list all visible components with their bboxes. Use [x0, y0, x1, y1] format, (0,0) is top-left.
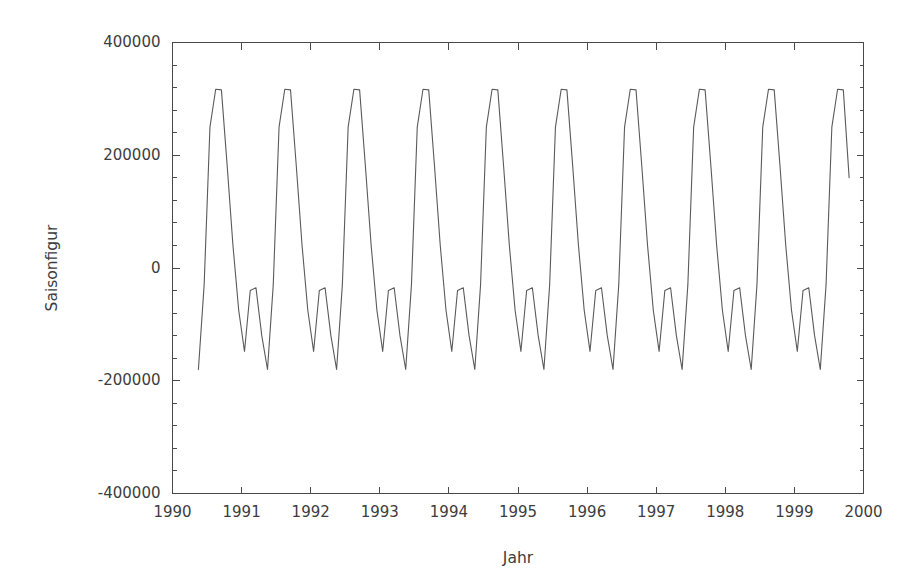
plot-frame: [173, 43, 864, 494]
y-tick-label: -200000: [98, 371, 161, 389]
x-axis-title: Jahr: [502, 549, 534, 567]
x-tick-label: 2000: [844, 503, 882, 521]
x-tick-label: 1993: [361, 503, 399, 521]
y-tick-label: 0: [151, 259, 161, 277]
y-axis-ticks: [173, 43, 864, 494]
x-axis-ticks: [173, 43, 864, 494]
x-tick-label: 1991: [223, 503, 261, 521]
x-tick-label: 1992: [292, 503, 330, 521]
x-tick-label: 1994: [430, 503, 468, 521]
y-tick-label: 400000: [103, 33, 160, 51]
seasonal-figure-chart: -400000-2000000200000400000 199019911992…: [0, 0, 914, 586]
y-axis-tick-labels: -400000-2000000200000400000: [98, 33, 161, 502]
data-series-group: [198, 89, 849, 369]
series-line-saisonfigur: [198, 89, 849, 369]
y-axis-title: Saisonfigur: [43, 224, 61, 311]
x-tick-label: 1990: [153, 503, 191, 521]
x-tick-label: 1995: [499, 503, 537, 521]
x-axis-tick-labels: 1990199119921993199419951996199719981999…: [153, 503, 882, 521]
x-tick-label: 1996: [568, 503, 606, 521]
x-tick-label: 1998: [706, 503, 744, 521]
x-tick-label: 1999: [775, 503, 813, 521]
chart-canvas: -400000-2000000200000400000 199019911992…: [0, 0, 914, 586]
y-tick-label: -400000: [98, 484, 161, 502]
x-tick-label: 1997: [637, 503, 675, 521]
y-tick-label: 200000: [103, 146, 160, 164]
